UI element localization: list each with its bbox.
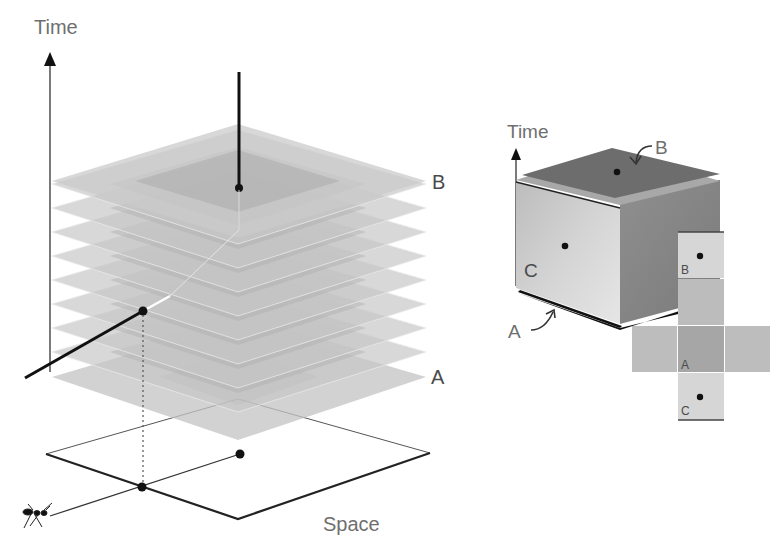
arrow-a-icon — [531, 312, 553, 330]
arrow-up-icon — [44, 52, 56, 66]
arrow-up-icon — [511, 148, 521, 160]
net-label-c: C — [681, 404, 690, 418]
cube-label-a: A — [508, 321, 521, 342]
right-spacetime-cube: Time B A C — [507, 121, 770, 420]
cube-label-c: C — [524, 260, 538, 281]
time-axis — [44, 52, 56, 372]
net-face-upper — [678, 279, 724, 325]
ground-point-intersect — [138, 483, 147, 492]
event-point-middle — [139, 307, 148, 316]
spacetime-diagram: Time — [0, 0, 782, 550]
cube-front-face-c — [516, 182, 620, 324]
ant-icon — [23, 503, 52, 528]
cube-label-b: B — [655, 137, 668, 158]
cube-front-point — [562, 243, 569, 250]
cube-top-point — [614, 169, 621, 176]
net-face-left — [632, 326, 677, 372]
left-spacetime-stack: Time — [23, 16, 445, 535]
cube-time-label: Time — [507, 121, 549, 142]
slice-label-b: B — [432, 171, 445, 193]
space-label: Space — [323, 513, 380, 535]
net-label-b: B — [681, 263, 689, 277]
slice-label-a: A — [431, 366, 445, 388]
net-face-right — [725, 326, 770, 372]
net-label-a: A — [681, 358, 689, 372]
time-axis-label: Time — [34, 16, 78, 38]
ground-point-end — [236, 450, 245, 459]
